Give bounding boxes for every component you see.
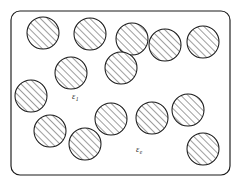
inclusion-5 (187, 26, 219, 58)
inclusion-2 (74, 18, 106, 50)
inclusion-14 (187, 133, 219, 165)
inclusion-3 (116, 23, 148, 55)
inclusion-7 (105, 52, 137, 84)
epsilon-1-label-subscript: 1 (76, 96, 79, 102)
composite-medium-figure: ε1εe (0, 0, 241, 186)
inclusion-1 (27, 17, 59, 49)
inclusion-8 (15, 80, 47, 112)
inclusion-13 (69, 128, 101, 160)
inclusion-10 (95, 103, 127, 135)
inclusion-6 (55, 57, 87, 89)
figure-canvas: ε1εe (0, 0, 241, 186)
inclusion-11 (136, 102, 168, 134)
inclusion-4 (149, 29, 181, 61)
inclusion-12 (34, 115, 66, 147)
inclusion-9 (172, 94, 204, 126)
